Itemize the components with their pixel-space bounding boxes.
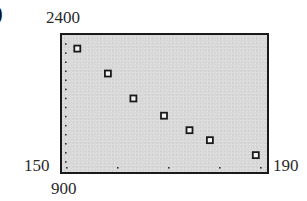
x-tick-dot: [168, 167, 170, 169]
y-tick-dot: [65, 80, 67, 82]
y-tick-dot: [65, 98, 67, 100]
data-markers: [74, 46, 258, 159]
data-point-marker: [130, 95, 136, 101]
y-tick-dot: [65, 70, 67, 72]
scatter-plot: [0, 0, 307, 201]
y-tick-dot: [65, 125, 67, 127]
y-tick-dot: [65, 134, 67, 136]
y-tick-dot: [65, 89, 67, 91]
y-tick-dot: [65, 52, 67, 54]
data-point-marker: [187, 127, 193, 133]
data-point-marker: [253, 152, 259, 158]
y-axis-ticks: [65, 43, 67, 162]
y-tick-dot: [65, 143, 67, 145]
data-point-marker: [105, 71, 111, 77]
y-tick-dot: [65, 43, 67, 45]
y-tick-dot: [65, 152, 67, 154]
y-tick-dot: [65, 61, 67, 63]
x-tick-dot: [260, 167, 262, 169]
data-point-marker: [74, 46, 80, 52]
y-tick-dot: [65, 116, 67, 118]
y-tick-dot: [65, 107, 67, 109]
x-tick-dot: [66, 167, 68, 169]
data-point-marker: [161, 113, 167, 119]
x-tick-dot: [117, 167, 119, 169]
data-point-marker: [207, 137, 213, 143]
y-tick-dot: [65, 161, 67, 163]
x-tick-dot: [219, 167, 221, 169]
x-axis-ticks: [66, 167, 262, 169]
